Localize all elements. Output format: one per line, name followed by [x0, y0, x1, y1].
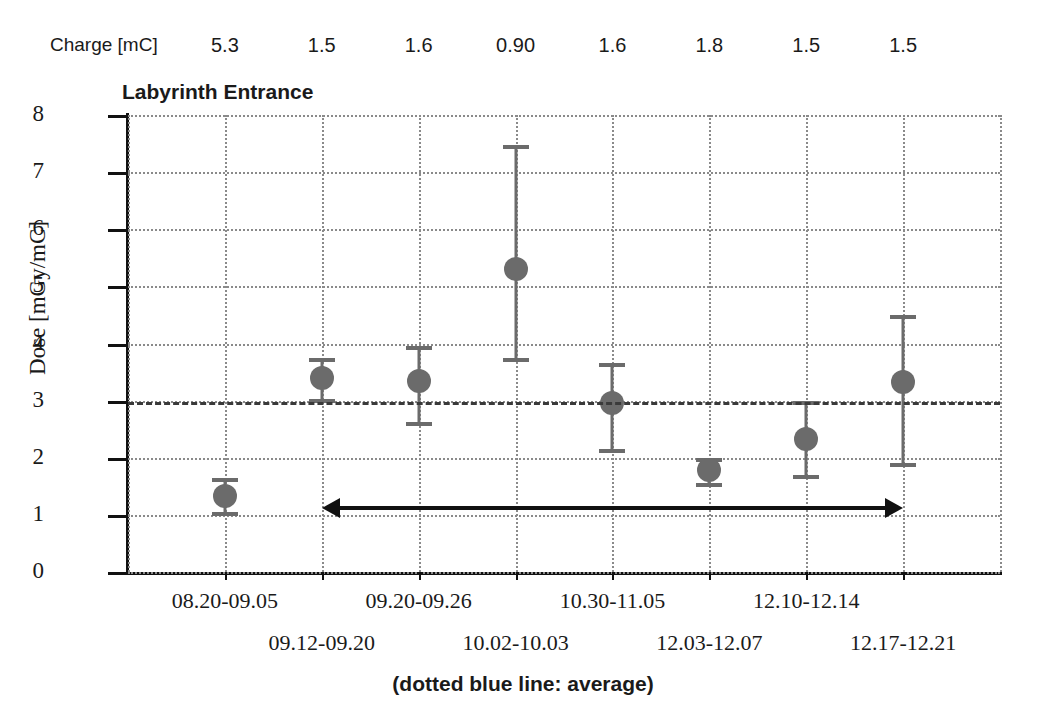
- charge-value: 1.5: [792, 34, 820, 57]
- y-tick-label: 6: [4, 215, 44, 241]
- gridline-vertical: [1000, 115, 1002, 572]
- charge-annotation-row: Charge [mC] 5.31.51.60.901.61.81.51.5: [0, 34, 1046, 64]
- gridline-vertical: [128, 115, 130, 572]
- error-cap-upper: [503, 145, 529, 149]
- x-tick-label: 09.20-09.26: [365, 588, 471, 614]
- charge-value: 0.90: [496, 34, 535, 57]
- average-line: [128, 402, 1000, 405]
- error-cap-upper: [406, 346, 432, 350]
- charge-value: 1.5: [308, 34, 336, 57]
- y-tick-label: 8: [4, 101, 44, 127]
- charge-value: 5.3: [211, 34, 239, 57]
- x-tick-mark: [903, 572, 905, 580]
- error-cap-lower: [503, 358, 529, 362]
- y-tick-mark: [108, 172, 128, 175]
- y-tick-label: 1: [4, 501, 44, 527]
- y-tick-mark: [108, 344, 128, 347]
- y-tick-label: 3: [4, 387, 44, 413]
- x-tick-mark: [225, 572, 227, 580]
- y-tick-mark: [108, 572, 128, 575]
- error-cap-lower: [890, 463, 916, 467]
- y-tick-mark: [108, 229, 128, 232]
- error-cap-upper: [599, 363, 625, 367]
- x-tick-label: 12.03-12.07: [656, 630, 762, 656]
- gridline-horizontal: [128, 458, 1000, 460]
- data-marker: [407, 369, 431, 393]
- gridline-horizontal: [128, 115, 1000, 117]
- error-cap-lower: [599, 449, 625, 453]
- error-cap-lower: [696, 483, 722, 487]
- x-tick-mark: [806, 572, 808, 580]
- gridline-horizontal: [128, 286, 1000, 288]
- error-cap-lower: [406, 422, 432, 426]
- y-tick-label: 5: [4, 272, 44, 298]
- error-cap-lower: [793, 475, 819, 479]
- error-cap-upper: [309, 358, 335, 362]
- page-title: Labyrinth Entrance: [122, 80, 313, 104]
- x-tick-label: 10.02-10.03: [462, 630, 568, 656]
- gridline-horizontal: [128, 229, 1000, 231]
- gridline-horizontal: [128, 344, 1000, 346]
- gridline-horizontal: [128, 572, 1000, 574]
- x-tick-mark: [322, 572, 324, 580]
- charge-row-label: Charge [mC]: [50, 34, 158, 56]
- y-tick-label: 4: [4, 330, 44, 356]
- error-cap-upper: [212, 478, 238, 482]
- data-marker: [213, 484, 237, 508]
- x-tick-mark: [419, 572, 421, 580]
- y-tick-mark: [108, 115, 128, 118]
- y-tick-mark: [108, 515, 128, 518]
- charge-value: 1.8: [695, 34, 723, 57]
- x-tick-label: 12.17-12.21: [850, 630, 956, 656]
- charge-value: 1.6: [599, 34, 627, 57]
- y-tick-mark: [108, 286, 128, 289]
- arrow-head-right-icon: [885, 498, 903, 518]
- data-marker: [504, 257, 528, 281]
- x-tick-label: 10.30-11.05: [560, 588, 666, 614]
- data-marker: [891, 370, 915, 394]
- arrow-shaft: [334, 506, 891, 510]
- charge-value: 1.6: [405, 34, 433, 57]
- data-marker: [697, 458, 721, 482]
- chart-footnote: (dotted blue line: average): [0, 672, 1046, 696]
- span-arrow-annotation: [322, 498, 903, 518]
- error-bar: [514, 145, 517, 358]
- y-tick-label: 2: [4, 444, 44, 470]
- data-marker: [310, 366, 334, 390]
- dose-chart-figure: Charge [mC] 5.31.51.60.901.61.81.51.5 La…: [0, 0, 1046, 716]
- charge-value: 1.5: [889, 34, 917, 57]
- x-tick-label: 12.10-12.14: [753, 588, 859, 614]
- data-marker: [794, 427, 818, 451]
- y-tick-mark: [108, 401, 128, 404]
- x-tick-label: 09.12-09.20: [269, 630, 375, 656]
- x-tick-mark: [709, 572, 711, 580]
- error-cap-upper: [890, 315, 916, 319]
- y-tick-label: 7: [4, 158, 44, 184]
- gridline-horizontal: [128, 172, 1000, 174]
- error-cap-lower: [212, 512, 238, 516]
- y-tick-mark: [108, 458, 128, 461]
- x-tick-label: 08.20-09.05: [172, 588, 278, 614]
- arrow-head-left-icon: [322, 498, 340, 518]
- y-tick-label: 0: [4, 558, 44, 584]
- x-tick-mark: [612, 572, 614, 580]
- x-tick-mark: [516, 572, 518, 580]
